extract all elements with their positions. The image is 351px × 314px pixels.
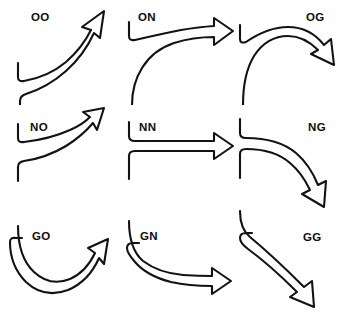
arrow-glyph-ng (234, 105, 351, 210)
arrow-cell-ng: NG (234, 105, 351, 210)
arrow-grid: OO ON OG NO NN NG (0, 0, 351, 314)
arrow-cell-nn: NN (117, 105, 234, 210)
arrow-glyph-gg (234, 209, 351, 314)
arrow-glyph-on (117, 0, 234, 105)
arrow-outline-oo (18, 11, 104, 105)
arrow-glyph-oo (0, 0, 117, 105)
arrow-cell-no: NO (0, 105, 117, 210)
cell-label-oo: OO (31, 12, 50, 24)
arrow-outline-no (18, 108, 104, 181)
cell-label-on: ON (138, 12, 156, 24)
arrow-cell-go: GO (0, 209, 117, 314)
cell-label-nn: NN (139, 122, 156, 134)
arrow-cell-oo: OO (0, 0, 117, 105)
arrow-cell-on: ON (117, 0, 234, 105)
arrow-cell-og: OG (234, 0, 351, 105)
cell-label-og: OG (306, 12, 325, 24)
arrow-cell-gg: GG (234, 209, 351, 314)
arrow-glyph-no (0, 105, 117, 210)
cell-label-gg: GG (303, 232, 322, 244)
arrow-outline-go (10, 226, 108, 293)
arrow-glyph-nn (117, 105, 234, 210)
arrow-outline-gg (240, 211, 314, 307)
cell-label-gn: GN (140, 231, 158, 243)
arrow-glyph-gn (117, 209, 234, 314)
arrow-outline-og (240, 25, 334, 105)
cell-label-go: GO (32, 231, 51, 243)
cell-label-no: NO (30, 122, 48, 134)
arrow-glyph-og (234, 0, 351, 105)
cell-label-ng: NG (308, 122, 326, 134)
arrow-glyph-go (0, 209, 117, 314)
arrow-cell-gn: GN (117, 209, 234, 314)
arrow-outline-on (129, 18, 233, 105)
